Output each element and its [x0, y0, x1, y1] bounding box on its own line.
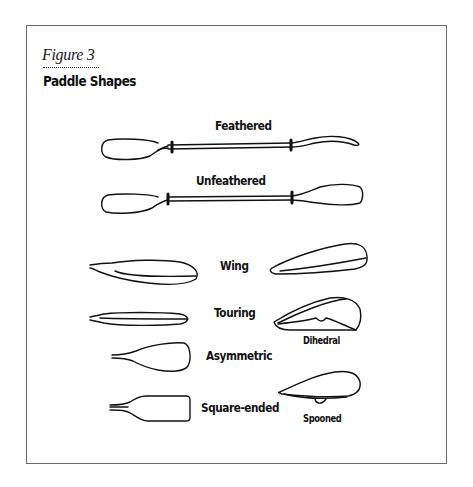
feathered-paddle-drawing — [102, 136, 359, 159]
wing-profile-drawing — [270, 244, 367, 275]
asymmetric-blade-drawing — [112, 343, 190, 371]
dihedral-profile-drawing — [274, 297, 361, 330]
spooned-profile-drawing — [279, 371, 360, 403]
wing-blade-drawing — [90, 260, 197, 284]
paddle-illustrations — [0, 0, 473, 487]
touring-blade-drawing — [90, 313, 188, 326]
square-ended-blade-drawing — [110, 396, 190, 421]
unfeathered-paddle-drawing — [102, 184, 363, 213]
